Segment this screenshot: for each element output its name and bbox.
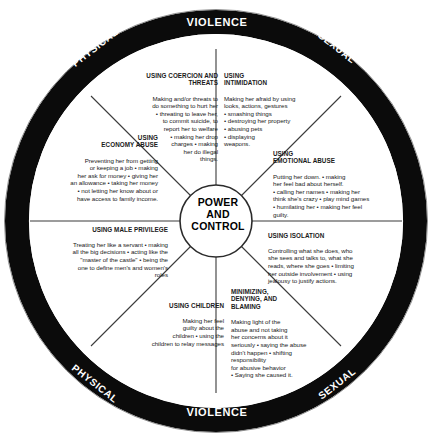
segment-body: Making her afraid by using looks, action… — [224, 95, 316, 148]
segment-minimizing-denying-and-blaming: MINIMIZING, DENYING, AND BLAMING Making … — [231, 280, 323, 387]
segment-body: Putting her down. • making her feel bad … — [273, 173, 391, 219]
power-and-control-wheel: POWER AND CONTROL PHYSICAL VIOLENCE SEXU… — [0, 0, 433, 446]
ring-label-violence-bottom: VIOLENCE — [178, 406, 256, 418]
segment-title: USING CHILDREN — [120, 302, 224, 310]
segment-body: Treating her like a servant • making all… — [56, 241, 168, 279]
segment-body: Making her feel guilty about the childre… — [120, 317, 224, 347]
segment-using-emotional-abuse: USING EMOTIONAL ABUSE Putting her down. … — [273, 142, 391, 226]
hub-line-3: CONTROL — [191, 220, 244, 232]
segment-title: MINIMIZING, DENYING, AND BLAMING — [231, 288, 323, 311]
segment-using-male-privilege: USING MALE PRIVILEGE Treating her like a… — [56, 218, 168, 286]
ring-label-violence-top: VIOLENCE — [178, 16, 256, 28]
hub-line-1: POWER — [198, 196, 239, 208]
segment-title: USING MALE PRIVILEGE — [56, 226, 168, 234]
segment-title: USING COERCION AND THREATS — [122, 72, 218, 87]
hub-line-2: AND — [206, 208, 229, 220]
segment-title: USING ECONOMY ABUSE — [50, 134, 158, 149]
segment-body: Making light of the abuse and not taking… — [231, 318, 323, 379]
hub-label: POWER AND CONTROL — [180, 196, 256, 233]
segment-using-children: USING CHILDREN Making her feel guilty ab… — [120, 294, 224, 355]
segment-title: USING INTIMIDATION — [224, 72, 316, 87]
segment-title: USING EMOTIONAL ABUSE — [273, 150, 391, 165]
segment-using-economy-abuse: USING ECONOMY ABUSE Preventing her from … — [50, 126, 158, 210]
segment-body: Preventing her from getting or keeping a… — [50, 157, 158, 203]
segment-title: USING ISOLATION — [268, 232, 382, 240]
